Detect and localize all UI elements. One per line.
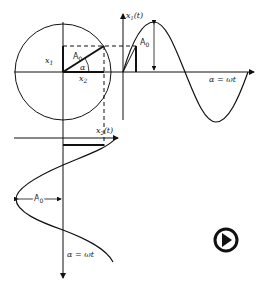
label-vertical-axis: α = ωt xyxy=(67,250,95,259)
label-upper-a0: A0 xyxy=(140,38,149,48)
sine-start-ramp xyxy=(123,46,136,72)
label-a0: A0 xyxy=(73,52,82,62)
angle-arc xyxy=(85,58,89,72)
label-alpha: α xyxy=(80,63,86,72)
label-x2: x2 xyxy=(79,74,88,84)
label-x1-t: x1(t) xyxy=(126,11,143,21)
diagram-canvas: x1 A0 α x2 x1(t) A0 α = ωt x2(t) A0 α = … xyxy=(0,0,262,282)
label-x2-t: x2(t) xyxy=(96,126,113,136)
phasor-diagram: x1 A0 α x2 x1(t) A0 α = ωt x2(t) A0 α = … xyxy=(0,0,262,282)
label-lower-a0: A0 xyxy=(34,194,43,204)
play-button[interactable] xyxy=(215,229,237,251)
label-horizontal-axis: α = ωt xyxy=(209,75,237,84)
cosine-curve xyxy=(16,138,116,262)
label-x1: x1 xyxy=(45,56,53,66)
